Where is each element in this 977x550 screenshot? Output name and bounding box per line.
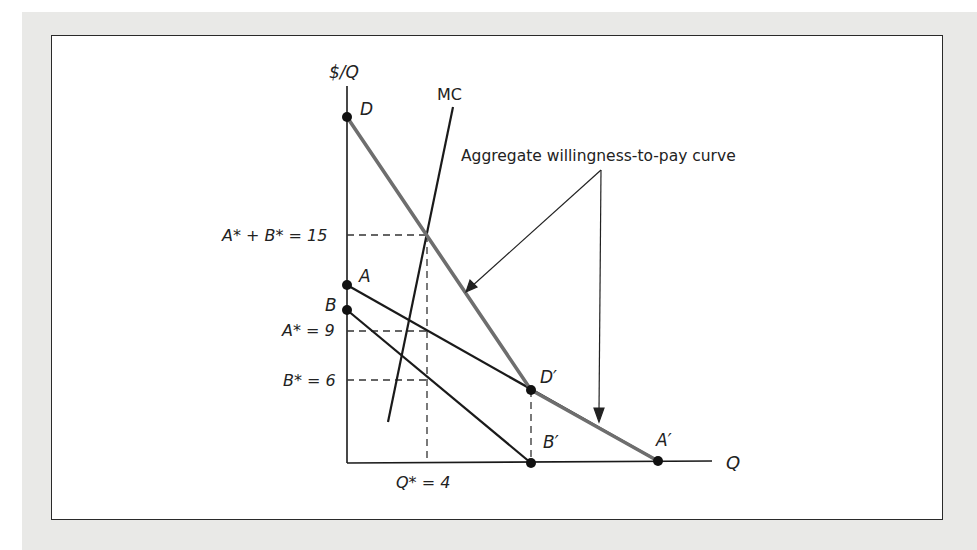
label-a-star-9: A* = 9 bbox=[281, 321, 335, 340]
label-d: D bbox=[360, 99, 373, 119]
arrow-vertical bbox=[599, 170, 601, 412]
label-a-prime: A′ bbox=[655, 430, 672, 450]
label-b: B bbox=[325, 295, 337, 315]
chart-svg: $/Q Q MC Aggregate willingness-to-pay cu… bbox=[0, 0, 977, 550]
point-b bbox=[342, 305, 352, 315]
mc-label: MC bbox=[437, 85, 462, 104]
label-b-prime: B′ bbox=[543, 432, 559, 452]
aggregate-curve bbox=[347, 117, 658, 461]
label-sum-15: A* + B* = 15 bbox=[221, 226, 327, 245]
annotation-label: Aggregate willingness-to-pay curve bbox=[461, 147, 736, 165]
label-b-star-6: B* = 6 bbox=[283, 371, 336, 390]
point-d bbox=[342, 112, 352, 122]
arrow-diagonal bbox=[471, 170, 601, 287]
arrowhead-diagonal-icon bbox=[466, 280, 477, 292]
label-q-star-4: Q* = 4 bbox=[396, 473, 450, 492]
label-d-prime: D′ bbox=[540, 367, 557, 387]
point-d-prime bbox=[526, 385, 536, 395]
x-axis-label: Q bbox=[726, 452, 740, 473]
y-axis-label: $/Q bbox=[329, 62, 359, 82]
point-a-prime bbox=[653, 456, 663, 466]
point-a bbox=[342, 280, 352, 290]
mc-line bbox=[388, 107, 453, 422]
label-a: A bbox=[358, 266, 371, 286]
arrowhead-vertical-icon bbox=[594, 408, 604, 422]
point-b-prime bbox=[526, 458, 536, 468]
demand-line-b bbox=[347, 310, 531, 463]
annotation-arrows bbox=[466, 170, 604, 422]
